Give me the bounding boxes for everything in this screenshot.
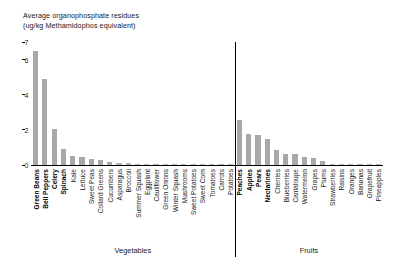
bar [339, 164, 344, 165]
bar-slot [216, 42, 225, 165]
category-label-cell: Strawberries [328, 168, 337, 240]
category-label: Winter Squash [171, 169, 178, 212]
category-label-cell: Cauliflower [151, 168, 160, 240]
category-label: Cucumbers [106, 169, 113, 203]
x-axis-category-labels: Green BeansBell PeppersCelerySpinachKale… [31, 168, 383, 240]
category-label: Eggplant [143, 169, 150, 195]
bar [116, 163, 121, 165]
y-axis-tick-mark [22, 94, 25, 95]
group-label-fruits: Fruits [300, 246, 318, 255]
bar-slot [189, 42, 198, 165]
category-label-cell: Blueberries [281, 168, 290, 240]
bar [181, 164, 186, 165]
category-label-cell: Broccoli [124, 168, 133, 240]
bar-slot [290, 42, 299, 165]
category-label-cell: Sweet Peas [87, 168, 96, 240]
bar-slot [244, 42, 253, 165]
bar-slot [346, 42, 355, 165]
category-label-cell: Watermelon [300, 168, 309, 240]
category-label-cell: Lettuce [77, 168, 86, 240]
bar [218, 164, 223, 165]
bar-slot [281, 42, 290, 165]
category-label-cell: Bell Peppers [40, 168, 49, 240]
category-label: Plums [319, 169, 326, 187]
category-label-cell: Tomatoes [207, 168, 216, 240]
bar-slot [87, 42, 96, 165]
category-label: Strawberries [329, 169, 336, 206]
category-label-cell: Peaches [235, 168, 244, 240]
x-axis-line [31, 165, 383, 166]
category-label: Sweet Peas [88, 169, 95, 204]
bar [302, 157, 307, 165]
category-label-cell: Sweet Corn [198, 168, 207, 240]
bar [200, 164, 205, 165]
category-label: Cantaloupe [292, 169, 299, 203]
bar [357, 164, 362, 165]
bar [79, 157, 84, 165]
category-label-cell: Nectarines [263, 168, 272, 240]
bar-slot [170, 42, 179, 165]
bar-slot [40, 42, 49, 165]
category-label: Lettuce [78, 169, 85, 191]
category-label-cell: Oranges [346, 168, 355, 240]
bar-slot [142, 42, 151, 165]
category-label-cell: Green Beans [31, 168, 40, 240]
bar-slot [337, 42, 346, 165]
category-label: Pears [255, 169, 262, 187]
category-label-cell: Potatoes [226, 168, 235, 240]
category-label-cell: Summer Squash [133, 168, 142, 240]
bar-slot [272, 42, 281, 165]
bar [98, 160, 103, 165]
bar-slot [114, 42, 123, 165]
bar [126, 163, 131, 165]
category-label-cell: Grapefruit [365, 168, 374, 240]
bar [209, 164, 214, 165]
bar-slot [179, 42, 188, 165]
bar [330, 164, 335, 165]
category-label-cell: Pineapples [374, 168, 383, 240]
group-label-vegetables: Vegetables [115, 246, 152, 255]
category-label: Potatoes [227, 169, 234, 195]
category-label: Broccoli [125, 169, 132, 192]
chart-title-line-1: Average organophosphate residues [23, 11, 139, 20]
category-label: Peaches [236, 169, 243, 196]
category-label: Collard Greens [97, 169, 104, 213]
bar-slot [96, 42, 105, 165]
bar [107, 162, 112, 166]
y-axis-tick-mark [22, 59, 25, 60]
bar [163, 164, 168, 165]
bar [33, 51, 38, 165]
category-label: Apples [245, 169, 252, 191]
bar [172, 164, 177, 165]
bar [89, 159, 94, 165]
category-label: Bell Peppers [41, 169, 48, 209]
category-label: Tomatoes [208, 169, 215, 197]
category-label: Raisins [338, 169, 345, 191]
category-label: Mushrooms [180, 169, 187, 203]
bar-slot [68, 42, 77, 165]
category-label-cell: Cherries [272, 168, 281, 240]
category-label-cell: Asparagus [114, 168, 123, 240]
bar-slot [77, 42, 86, 165]
category-label-cell: Cantaloupe [290, 168, 299, 240]
bar-slot [151, 42, 160, 165]
category-label-cell: Kale [68, 168, 77, 240]
category-label-cell: Raisins [337, 168, 346, 240]
y-axis-tick-mark [22, 42, 25, 43]
bar [191, 164, 196, 165]
category-label: Grapefruit [366, 169, 373, 198]
bar [237, 120, 242, 165]
bar-slot [207, 42, 216, 165]
bar [246, 134, 251, 165]
chart-title-line-2: (ug/kg Methamidophos equivalent) [23, 21, 136, 30]
chart-figure: Average organophosphate residues (ug/kg … [0, 0, 400, 272]
category-label-cell: Spinach [59, 168, 68, 240]
category-label-cell: Eggplant [142, 168, 151, 240]
category-label-cell: Green Onions [161, 168, 170, 240]
category-label-cell: Cucumbers [105, 168, 114, 240]
category-label-cell: Pears [253, 168, 262, 240]
bar [135, 164, 140, 165]
bar [292, 154, 297, 165]
category-label: Sweet Potatoes [190, 169, 197, 215]
category-label: Cherries [273, 169, 280, 194]
